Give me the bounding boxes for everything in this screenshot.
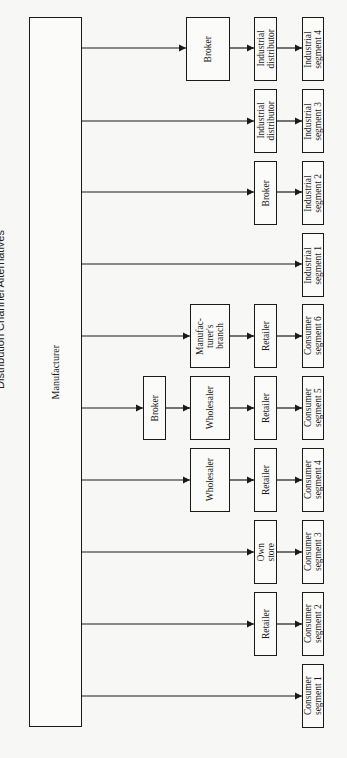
retailer-label: Retailer: [261, 321, 271, 351]
own-store-label: Own store: [256, 543, 276, 561]
broker-box-ind2: Broker: [254, 161, 277, 225]
segment-label: Consumer segment 3: [303, 532, 323, 571]
segment-label: Consumer segment 2: [303, 604, 323, 643]
wholesaler-label: Wholesaler: [205, 386, 215, 429]
wholesaler-box-c5: Wholesaler: [190, 376, 230, 440]
consumer-segment-5-box: Consumer segment 5: [302, 376, 324, 440]
segment-label: Consumer segment 6: [303, 316, 323, 355]
segment-label: Consumer segment 1: [303, 676, 323, 715]
retailer-label: Retailer: [261, 609, 271, 639]
industrial-distributor-label: Industrial distributor: [256, 101, 276, 141]
industrial-distributor-box-ind3: Industrial distributor: [254, 89, 277, 153]
industrial-distributor-box-ind4: Industrial distributor: [254, 17, 277, 81]
manufacturer-label: Manufacturer: [51, 345, 61, 399]
retailer-box-c4: Retailer: [254, 448, 277, 512]
industrial-segment-3-box: Industrial segment 3: [302, 89, 324, 153]
segment-label: Consumer segment 4: [303, 460, 323, 499]
segment-label: Industrial segment 2: [303, 174, 323, 213]
broker-label: Broker: [261, 180, 271, 206]
consumer-segment-4-box: Consumer segment 4: [302, 448, 324, 512]
wholesaler-box-c4: Wholesaler: [190, 448, 230, 512]
industrial-segment-4-box: Industrial segment 4: [302, 17, 324, 81]
broker-box-ind4: Broker: [186, 17, 230, 81]
consumer-segment-1-box: Consumer segment 1: [302, 664, 324, 728]
retailer-label: Retailer: [261, 465, 271, 495]
segment-label: Industrial segment 1: [303, 246, 323, 285]
broker-box-c5: Broker: [143, 376, 166, 440]
broker-label: Broker: [150, 395, 160, 421]
manufacturers-branch-box: Manufac- turer's branch: [190, 304, 230, 368]
consumer-segment-6-box: Consumer segment 6: [302, 304, 324, 368]
manufacturers-branch-label: Manufac- turer's branch: [195, 318, 225, 355]
retailer-box-c2: Retailer: [254, 592, 277, 656]
retailer-label: Retailer: [261, 393, 271, 423]
industrial-distributor-label: Industrial distributor: [256, 29, 276, 69]
wholesaler-label: Wholesaler: [205, 458, 215, 501]
segment-label: Industrial segment 3: [303, 102, 323, 141]
consumer-segment-2-box: Consumer segment 2: [302, 592, 324, 656]
manufacturer-box: Manufacturer: [29, 17, 82, 727]
own-store-box: Own store: [254, 520, 277, 584]
segment-label: Consumer segment 5: [303, 388, 323, 427]
retailer-box-c5: Retailer: [254, 376, 277, 440]
industrial-segment-1-box: Industrial segment 1: [302, 233, 324, 297]
consumer-segment-3-box: Consumer segment 3: [302, 520, 324, 584]
retailer-box-c6: Retailer: [254, 304, 277, 368]
industrial-segment-2-box: Industrial segment 2: [302, 161, 324, 225]
broker-label: Broker: [203, 36, 213, 62]
segment-label: Industrial segment 4: [303, 30, 323, 69]
